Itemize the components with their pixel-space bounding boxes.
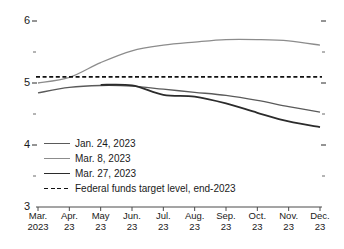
legend-swatch-icon (44, 154, 70, 164)
series-line-0 (38, 85, 320, 112)
legend-item-2: Mar. 27, 2023 (44, 166, 236, 181)
legend-swatch-icon (44, 184, 70, 194)
x-axis-label-month: Dec. (300, 211, 340, 222)
legend-label: Federal funds target level, end-2023 (75, 183, 236, 194)
legend-item-1: Mar. 8, 2023 (44, 151, 236, 166)
legend-swatch-icon (44, 139, 70, 149)
legend-item-3: Federal funds target level, end-2023 (44, 181, 236, 196)
legend-item-0: Jan. 24, 2023 (44, 136, 236, 151)
x-axis-label-year: 23 (300, 222, 340, 233)
x-axis-label-9: Dec.23 (300, 211, 340, 232)
legend-label: Jan. 24, 2023 (75, 138, 136, 149)
chart-container: 6543 Mar.2023Apr.23May23Jun.23Jul.23Aug.… (0, 0, 344, 249)
legend-line-marker (44, 158, 70, 159)
y-axis-label-4: 4 (14, 139, 30, 150)
y-axis-label-6: 6 (14, 15, 30, 26)
legend-label: Mar. 8, 2023 (75, 153, 131, 164)
legend-line-marker (44, 188, 70, 190)
series-layer (36, 39, 322, 127)
y-axis-label-5: 5 (14, 77, 30, 88)
legend-line-marker (44, 173, 70, 175)
chart-legend: Jan. 24, 2023Mar. 8, 2023Mar. 27, 2023Fe… (44, 136, 236, 196)
legend-label: Mar. 27, 2023 (75, 168, 136, 179)
legend-line-marker (44, 143, 70, 144)
series-line-1 (38, 39, 320, 83)
legend-swatch-icon (44, 169, 70, 179)
